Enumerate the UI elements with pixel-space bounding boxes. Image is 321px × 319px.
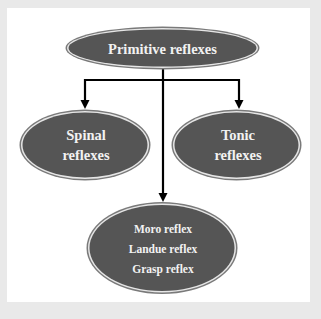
node-other-reflexes: Moro reflex Landue reflex Grasp reflex: [87, 202, 238, 294]
node-label-line: Grasp reflex: [132, 263, 194, 276]
node-label-line: Spinal: [66, 127, 106, 143]
node-label-line: Landue reflex: [129, 243, 198, 255]
node-tonic-reflexes: Tonic reflexes: [172, 110, 302, 181]
node-label-line: reflexes: [62, 147, 110, 163]
node-label: Primitive reflexes: [108, 41, 217, 57]
node-label-line: reflexes: [214, 147, 262, 163]
arrowhead-icon: [81, 100, 90, 109]
node-spinal-reflexes: Spinal reflexes: [20, 110, 151, 181]
arrowhead-icon: [159, 193, 168, 202]
node-primitive-reflexes: Primitive reflexes: [66, 27, 260, 70]
node-label-line: Tonic: [221, 127, 256, 143]
node-label-line: Moro reflex: [134, 223, 192, 235]
arrowhead-icon: [235, 100, 244, 109]
diagram-canvas: Primitive reflexes Spinal reflexes Tonic…: [0, 0, 321, 319]
